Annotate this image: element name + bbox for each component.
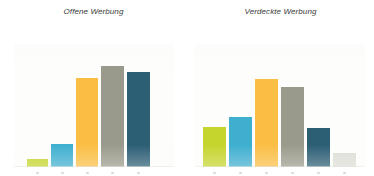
x-axis-tick-4 [291, 172, 294, 174]
x-axis-line-left [14, 166, 174, 167]
bar-group-verdeckte-werbung [195, 44, 365, 167]
plot-area-verdeckte-werbung [195, 44, 365, 167]
bar-2 [229, 117, 252, 167]
x-axis-tick-3 [265, 172, 268, 174]
x-axis-line-right [195, 166, 365, 167]
figure-canvas: Offene Werbung Verdeckte Werbung [0, 0, 374, 176]
bar-group-offene-werbung [14, 44, 174, 167]
bar-3 [76, 78, 98, 167]
chart-title-verdeckte-werbung: Verdeckte Werbung [187, 7, 374, 17]
x-axis-tick-5 [137, 172, 140, 174]
x-axis-tick-1 [213, 172, 216, 174]
x-axis-tick-2 [239, 172, 242, 174]
bar-6 [333, 153, 356, 167]
x-axis-tick-1 [36, 172, 39, 174]
chart-title-offene-werbung: Offene Werbung [0, 7, 187, 17]
bar-5 [127, 72, 150, 167]
x-axis-tick-5 [317, 172, 320, 174]
bar-5 [307, 128, 330, 167]
bar-1 [203, 127, 226, 167]
bar-3 [255, 79, 278, 167]
chart-panel-verdeckte-werbung: Verdeckte Werbung [187, 0, 374, 176]
plot-area-offene-werbung [14, 44, 174, 167]
x-axis-tick-4 [111, 172, 114, 174]
chart-panel-offene-werbung: Offene Werbung [0, 0, 187, 176]
x-axis-tick-2 [61, 172, 64, 174]
x-axis-tick-3 [86, 172, 89, 174]
bar-2 [51, 144, 73, 167]
bar-4 [281, 87, 304, 167]
bar-4 [101, 66, 124, 167]
x-axis-tick-6 [343, 172, 346, 174]
